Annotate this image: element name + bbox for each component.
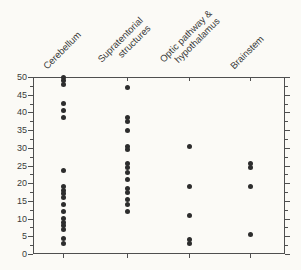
category-label: Cerebellum	[41, 30, 83, 72]
plot-area	[33, 77, 285, 254]
y-minor-tick-left	[30, 227, 33, 228]
category-tick-top	[189, 77, 190, 81]
y-tick-label: 10	[6, 214, 27, 224]
y-minor-tick-left	[30, 157, 33, 158]
y-major-tick-left	[28, 112, 33, 113]
y-minor-tick-left	[30, 86, 33, 87]
data-point	[125, 128, 130, 133]
y-major-tick-left	[28, 183, 33, 184]
y-major-tick-right	[285, 77, 290, 78]
data-point	[187, 213, 192, 218]
data-point	[61, 209, 66, 214]
y-minor-tick-left	[30, 245, 33, 246]
y-major-tick-right	[285, 254, 290, 255]
y-major-tick-left	[28, 95, 33, 96]
data-point	[61, 202, 66, 207]
y-major-tick-right	[285, 236, 290, 237]
category-label: Supratentorialstructures	[96, 15, 153, 72]
y-minor-tick-right	[285, 157, 288, 158]
category-tick-bottom	[127, 254, 128, 258]
y-major-tick-right	[285, 183, 290, 184]
data-point	[125, 202, 130, 207]
y-minor-tick-right	[285, 121, 288, 122]
y-major-tick-left	[28, 236, 33, 237]
y-major-tick-left	[28, 77, 33, 78]
data-point	[61, 236, 66, 241]
y-tick-label: 25	[6, 161, 27, 171]
category-label: Brainstem	[228, 34, 266, 72]
category-tick-bottom	[63, 254, 64, 258]
y-minor-tick-left	[30, 139, 33, 140]
y-major-tick-right	[285, 219, 290, 220]
data-point	[61, 195, 66, 200]
y-major-tick-left	[28, 219, 33, 220]
strip-scatter-chart: 05101520253035404550 CerebellumSupratent…	[0, 0, 301, 270]
y-minor-tick-right	[285, 210, 288, 211]
y-major-tick-right	[285, 112, 290, 113]
y-minor-tick-right	[285, 174, 288, 175]
y-minor-tick-right	[285, 192, 288, 193]
y-minor-tick-left	[30, 192, 33, 193]
category-tick-top	[250, 77, 251, 81]
data-point	[61, 82, 66, 87]
data-point	[248, 232, 253, 237]
y-tick-label: 40	[6, 107, 27, 117]
data-point	[125, 119, 130, 124]
data-point	[61, 241, 66, 246]
y-tick-label: 15	[6, 196, 27, 206]
data-point	[125, 165, 130, 170]
category-tick-bottom	[189, 254, 190, 258]
data-point	[125, 190, 130, 195]
y-minor-tick-left	[30, 121, 33, 122]
y-major-tick-right	[285, 148, 290, 149]
category-label: Optic pathway &hypothalamus	[158, 8, 222, 72]
y-major-tick-left	[28, 166, 33, 167]
data-point	[125, 209, 130, 214]
y-minor-tick-right	[285, 104, 288, 105]
y-minor-tick-left	[30, 174, 33, 175]
y-major-tick-right	[285, 201, 290, 202]
y-tick-label: 0	[6, 249, 27, 259]
data-point	[248, 165, 253, 170]
y-tick-label: 20	[6, 178, 27, 188]
y-major-tick-right	[285, 130, 290, 131]
y-minor-tick-right	[285, 245, 288, 246]
y-major-tick-right	[285, 166, 290, 167]
category-tick-bottom	[250, 254, 251, 258]
y-major-tick-left	[28, 130, 33, 131]
y-tick-label: 35	[6, 125, 27, 135]
y-major-tick-left	[28, 148, 33, 149]
data-point	[125, 197, 130, 202]
y-major-tick-left	[28, 201, 33, 202]
category-tick-top	[127, 77, 128, 81]
y-minor-tick-left	[30, 210, 33, 211]
y-tick-label: 45	[6, 90, 27, 100]
y-tick-label: 30	[6, 143, 27, 153]
y-minor-tick-right	[285, 139, 288, 140]
data-point	[61, 227, 66, 232]
y-minor-tick-left	[30, 104, 33, 105]
y-major-tick-left	[28, 254, 33, 255]
y-minor-tick-right	[285, 86, 288, 87]
data-point	[187, 241, 192, 246]
y-tick-label: 50	[6, 72, 27, 82]
y-minor-tick-right	[285, 227, 288, 228]
y-major-tick-right	[285, 95, 290, 96]
data-point	[187, 144, 192, 149]
y-tick-label: 5	[6, 231, 27, 241]
